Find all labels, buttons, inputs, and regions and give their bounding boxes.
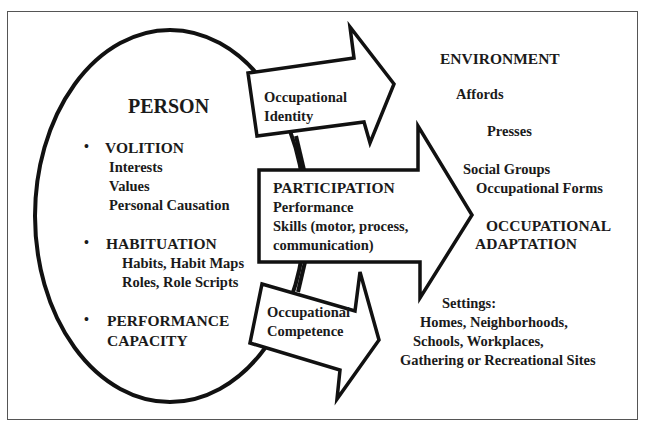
- habituation-item: Roles, Role Scripts: [122, 275, 238, 290]
- bullet-icon: •: [84, 312, 89, 328]
- settings-item: Gathering or Recreational Sites: [400, 353, 596, 368]
- environment-title: ENVIRONMENT: [440, 51, 560, 67]
- performance-capacity-heading: PERFORMANCE: [107, 313, 229, 329]
- occupational-competence-label: Occupational: [267, 305, 350, 320]
- occupational-identity-label-line2: Identity: [264, 109, 313, 124]
- volition-item: Values: [109, 179, 150, 194]
- environment-presses: Presses: [487, 124, 532, 139]
- environment-occupational-forms: Occupational Forms: [476, 181, 603, 196]
- bullet-icon: •: [84, 139, 89, 155]
- occupational-identity-arrow: [248, 27, 394, 143]
- occupational-identity-label: Occupational: [264, 90, 347, 105]
- occupational-adaptation-line2: ADAPTATION: [475, 236, 577, 252]
- performance-capacity-heading-line2: CAPACITY: [107, 333, 188, 349]
- participation-line: Skills (motor, process,: [273, 219, 408, 234]
- participation-line: Performance: [273, 200, 354, 215]
- bullet-icon: •: [84, 235, 89, 251]
- settings-item: Homes, Neighborhoods,: [420, 315, 568, 330]
- occupational-competence-label-line2: Competence: [267, 324, 344, 339]
- volition-heading: VOLITION: [105, 140, 184, 156]
- settings-label: Settings:: [442, 296, 496, 311]
- person-title: PERSON: [128, 96, 209, 116]
- participation-heading: PARTICIPATION: [273, 180, 395, 196]
- settings-item: Schools, Workplaces,: [413, 334, 544, 349]
- volition-item: Interests: [109, 160, 163, 175]
- environment-social-groups: Social Groups: [463, 162, 550, 177]
- participation-line: communication): [273, 238, 374, 253]
- habituation-heading: HABITUATION: [106, 236, 217, 252]
- environment-affords: Affords: [456, 87, 504, 102]
- occupational-adaptation: OCCUPATIONAL: [486, 218, 611, 234]
- volition-item: Personal Causation: [109, 198, 229, 213]
- habituation-item: Habits, Habit Maps: [122, 256, 244, 271]
